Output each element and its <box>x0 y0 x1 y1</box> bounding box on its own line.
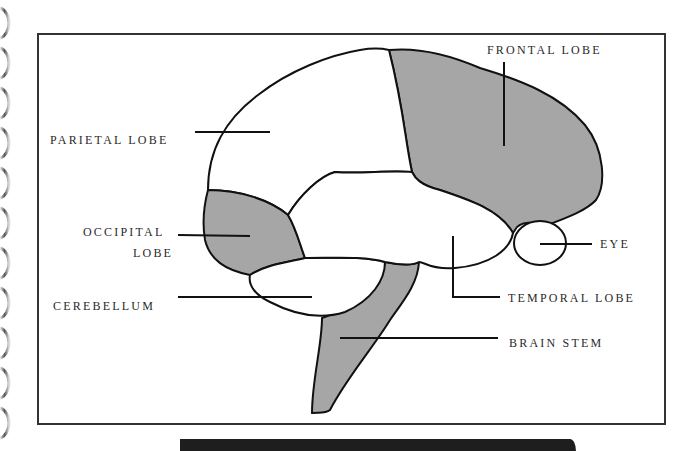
bottom-bar <box>180 439 576 451</box>
temporal-lobe-label: TEMPORAL LOBE <box>508 291 635 305</box>
occipital-lobe-leader <box>178 235 250 236</box>
eye-label: EYE <box>600 237 630 251</box>
parietal-lobe-label: PARIETAL LOBE <box>50 133 168 147</box>
occipital-lobe-label-line1: OCCIPITAL <box>83 225 165 239</box>
occipital-lobe-label-line2: LOBE <box>133 246 173 260</box>
frontal-lobe-label: FRONTAL LOBE <box>487 43 602 57</box>
brain-stem-label: BRAIN STEM <box>509 336 603 350</box>
cerebellum-label: CEREBELLUM <box>53 299 155 313</box>
